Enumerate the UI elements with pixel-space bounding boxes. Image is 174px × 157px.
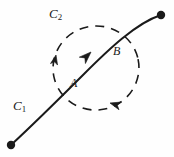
- c1-arrow-icon: [79, 49, 94, 64]
- c1-end-dot: [157, 11, 165, 19]
- label-c1: C1: [13, 99, 26, 112]
- c2-dashed-circle: [45, 18, 147, 118]
- label-c2: C2: [49, 7, 62, 20]
- label-c1-base: C: [13, 98, 22, 113]
- c1-open-curve: [11, 15, 161, 145]
- c1-start-dot: [7, 141, 15, 149]
- figure-canvas: [0, 0, 174, 157]
- label-point-a: A: [70, 77, 77, 89]
- label-c2-base: C: [49, 6, 58, 21]
- figure-container: C2 C1 A B: [0, 0, 174, 157]
- c2-arrow-left-icon: [51, 54, 60, 65]
- label-point-b: B: [113, 45, 120, 57]
- label-c1-subscript: 1: [22, 104, 26, 114]
- c2-arrow-bottom-icon: [109, 99, 121, 110]
- label-c2-subscript: 2: [58, 12, 62, 22]
